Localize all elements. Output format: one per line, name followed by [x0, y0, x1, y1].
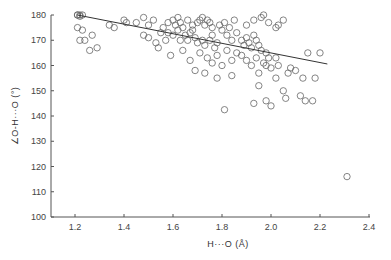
data-point — [287, 65, 293, 71]
data-point — [145, 22, 151, 28]
plot-area — [74, 12, 350, 180]
data-point — [229, 37, 235, 43]
data-point — [209, 60, 215, 66]
data-point — [231, 17, 237, 23]
data-point — [243, 57, 249, 63]
y-tick-label: 140 — [31, 111, 46, 121]
data-point — [170, 17, 176, 23]
data-point — [89, 32, 95, 38]
data-point — [312, 75, 318, 81]
x-tick-label: 1.2 — [69, 222, 82, 232]
data-point — [253, 55, 259, 61]
x-tick-label: 2.0 — [265, 222, 278, 232]
data-point — [221, 107, 227, 113]
data-point — [238, 37, 244, 43]
data-point — [234, 30, 240, 36]
data-point — [224, 32, 230, 38]
data-point — [219, 27, 225, 33]
data-point — [219, 62, 225, 68]
data-point — [268, 103, 274, 109]
data-point — [263, 98, 269, 104]
y-tick-label: 120 — [31, 162, 46, 172]
y-tick-label: 180 — [31, 10, 46, 20]
data-point — [224, 47, 230, 53]
data-point — [160, 24, 166, 30]
data-point — [248, 62, 254, 68]
y-tick-label: 110 — [32, 187, 46, 197]
data-point — [133, 19, 139, 25]
data-point — [155, 45, 161, 51]
data-point — [202, 42, 208, 48]
data-point — [111, 24, 117, 30]
y-axis-label: ∠O-H···O (°) — [10, 87, 20, 146]
data-point — [187, 57, 193, 63]
data-point — [229, 57, 235, 63]
data-point — [140, 14, 146, 20]
data-point — [177, 37, 183, 43]
data-point — [226, 24, 232, 30]
data-point — [268, 65, 274, 71]
y-tick-label: 130 — [31, 136, 46, 146]
data-point — [145, 35, 151, 41]
data-point — [265, 19, 271, 25]
data-point — [199, 14, 205, 20]
data-point — [165, 19, 171, 25]
data-point — [256, 83, 262, 89]
data-point — [229, 72, 235, 78]
data-point — [94, 45, 100, 51]
data-point — [192, 67, 198, 73]
x-axis: 1.21.41.61.82.02.22.4 — [51, 214, 375, 232]
data-point — [79, 27, 85, 33]
data-point — [302, 98, 308, 104]
data-point — [185, 17, 191, 23]
data-point — [243, 22, 249, 28]
data-point — [300, 75, 306, 81]
data-point — [283, 95, 289, 101]
data-point — [209, 32, 215, 38]
data-point — [280, 17, 286, 23]
x-tick-label: 1.6 — [167, 222, 180, 232]
data-point — [309, 98, 315, 104]
data-point — [175, 27, 181, 33]
data-point — [265, 55, 271, 61]
data-point — [297, 93, 303, 99]
data-point — [273, 75, 279, 81]
data-point — [87, 47, 93, 53]
data-point — [180, 47, 186, 53]
data-point — [216, 22, 222, 28]
data-point — [150, 17, 156, 23]
data-point — [209, 24, 215, 30]
y-tick-label: 160 — [31, 61, 46, 71]
data-point — [253, 37, 259, 43]
data-point — [167, 52, 173, 58]
x-tick-label: 1.4 — [118, 222, 131, 232]
x-tick-label: 2.2 — [314, 222, 327, 232]
data-point — [280, 88, 286, 94]
data-point — [275, 62, 281, 68]
y-tick-label: 170 — [31, 35, 46, 45]
data-point — [305, 50, 311, 56]
data-point — [251, 100, 257, 106]
data-point — [189, 27, 195, 33]
x-tick-label: 2.4 — [363, 222, 376, 232]
data-point — [202, 22, 208, 28]
data-point — [256, 70, 262, 76]
data-point — [246, 40, 252, 46]
data-point — [212, 45, 218, 51]
data-point — [317, 50, 323, 56]
y-tick-label: 150 — [31, 86, 46, 96]
data-point — [221, 19, 227, 25]
scatter-chart: 1.21.41.61.82.02.22.4 100110120130140150… — [0, 0, 391, 260]
data-point — [292, 67, 298, 73]
data-point — [251, 17, 257, 23]
x-tick-label: 1.8 — [216, 222, 229, 232]
x-axis-label: H···O (Å) — [207, 239, 249, 249]
data-point — [106, 22, 112, 28]
data-point — [153, 40, 159, 46]
data-point — [197, 50, 203, 56]
data-point — [74, 24, 80, 30]
data-point — [163, 37, 169, 43]
data-point — [194, 40, 200, 46]
data-point — [140, 32, 146, 38]
data-point — [273, 55, 279, 61]
